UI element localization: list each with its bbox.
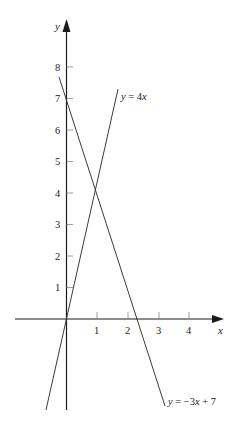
x-axis-arrow-icon	[212, 315, 224, 323]
line-label-y-equals-neg3x-plus-7: y = −3x + 7	[167, 396, 216, 407]
x-tick-labels: 1 2 3 4	[94, 325, 192, 336]
x-tick-label: 1	[94, 325, 99, 336]
y-tick-label: 1	[55, 282, 60, 293]
y-tick-label: 3	[55, 219, 60, 230]
y-axis-label: y	[54, 20, 60, 32]
series-line-y-equals-4x	[46, 89, 118, 410]
y-tick-label: 6	[55, 125, 60, 136]
y-tick-label: 4	[55, 188, 61, 199]
x-axis: x	[15, 315, 224, 336]
series-line-y-equals-neg3x-plus-7	[59, 77, 165, 406]
x-tick-label: 2	[125, 325, 130, 336]
y-axis-arrow-icon	[63, 19, 71, 32]
y-tick-label: 2	[55, 251, 60, 262]
y-tick-label: 5	[55, 156, 60, 167]
y-tick-label: 8	[55, 62, 60, 73]
x-tick-label: 4	[186, 325, 192, 336]
y-tick-label: 7	[55, 93, 60, 104]
x-tick-label: 3	[156, 325, 161, 336]
line-label-y-equals-4x: y = 4x	[120, 91, 147, 102]
x-ticks	[97, 312, 189, 319]
x-axis-label: x	[217, 324, 223, 336]
y-axis: y	[54, 19, 71, 410]
y-ticks	[67, 67, 74, 288]
chart-svg: x y 1 2 3 4	[0, 0, 232, 431]
line-chart: x y 1 2 3 4	[0, 0, 232, 431]
y-tick-labels: 1 2 3 4 5 6 7 8	[55, 62, 61, 293]
